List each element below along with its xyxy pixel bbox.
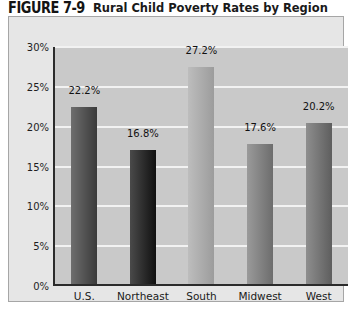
chart-frame: 0%5%10%15%20%25%30% 22.2%16.8%27.2%17.6%…: [8, 16, 344, 302]
bar-value-label: 22.2%: [68, 85, 100, 96]
y-axis: 0%5%10%15%20%25%30%: [13, 47, 49, 286]
figure-caption: Rural Child Poverty Rates by Region: [93, 0, 328, 15]
bar-value-label: 27.2%: [186, 45, 218, 56]
bar-value-label: 17.6%: [244, 122, 276, 133]
bar-slot: 17.6%: [231, 47, 290, 284]
x-tick-label: West: [289, 290, 348, 302]
bar-value-label: 16.8%: [127, 128, 159, 139]
plot-area: 22.2%16.8%27.2%17.6%20.2%: [53, 47, 348, 286]
bar-slot: 22.2%: [55, 47, 114, 284]
y-tick-label: 20%: [17, 121, 49, 132]
bar-slot: 20.2%: [289, 47, 348, 284]
bar[interactable]: [71, 107, 97, 284]
bar[interactable]: [188, 67, 214, 284]
bar[interactable]: [306, 123, 332, 284]
bar[interactable]: [130, 150, 156, 284]
y-tick-label: 15%: [17, 161, 49, 172]
y-tick-label: 25%: [17, 81, 49, 92]
figure-number: FIGURE 7-9: [8, 0, 85, 17]
x-tick-label: South: [172, 290, 231, 302]
x-tick-label: U.S.: [55, 290, 114, 302]
y-tick-label: 10%: [17, 201, 49, 212]
bar[interactable]: [247, 144, 273, 284]
bar-slot: 27.2%: [172, 47, 231, 284]
bar-slot: 16.8%: [114, 47, 173, 284]
figure-title: FIGURE 7-9 Rural Child Poverty Rates by …: [8, 0, 352, 16]
bar-value-label: 20.2%: [303, 101, 335, 112]
y-tick-label: 5%: [17, 241, 49, 252]
x-tick-label: Northeast: [114, 290, 173, 302]
x-tick-label: Midwest: [231, 290, 290, 302]
y-tick-label: 30%: [17, 42, 49, 53]
y-tick-label: 0%: [17, 281, 49, 292]
